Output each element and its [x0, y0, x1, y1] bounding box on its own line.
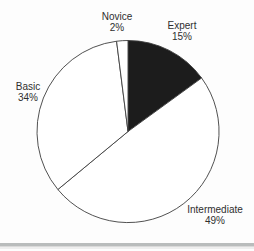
slice-name-intermediate: Intermediate: [187, 204, 243, 215]
slice-name-basic: Basic: [16, 81, 40, 92]
slice-label-novice: Novice 2%: [102, 11, 133, 33]
slice-name-expert: Expert: [168, 20, 197, 31]
slice-label-intermediate: Intermediate 49%: [187, 204, 243, 226]
slice-pct-novice: 2%: [102, 22, 133, 33]
chart-area: Novice 2% Expert 15% Basic 34% Intermedi…: [0, 0, 254, 251]
slice-label-expert: Expert 15%: [168, 20, 197, 42]
slice-pct-basic: 34%: [16, 92, 40, 103]
slice-pct-intermediate: 49%: [187, 215, 243, 226]
slice-name-novice: Novice: [102, 11, 133, 22]
slice-pct-expert: 15%: [168, 31, 197, 42]
slice-label-basic: Basic 34%: [16, 81, 40, 103]
bottom-divider: [0, 242, 254, 249]
